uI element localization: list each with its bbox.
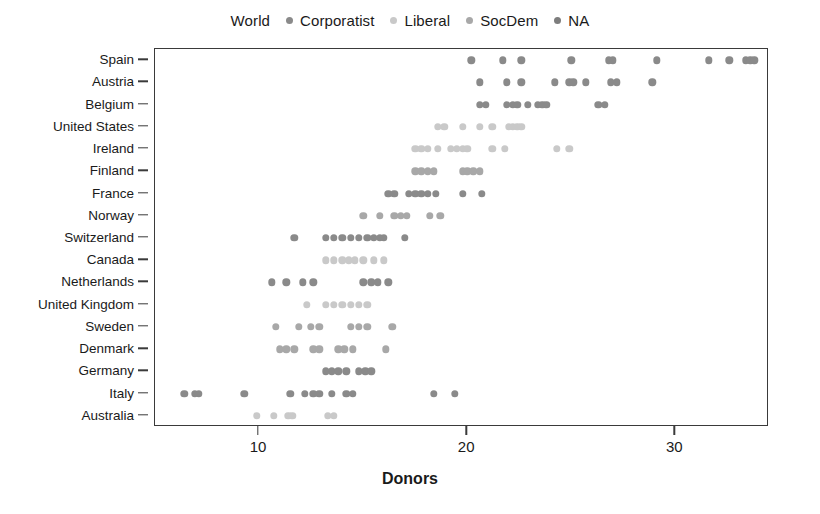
data-point — [343, 368, 350, 375]
y-axis-label: Germany — [78, 363, 134, 378]
y-axis-tick — [138, 370, 148, 371]
x-axis-tick — [257, 426, 258, 435]
data-point — [570, 79, 577, 86]
data-point — [613, 79, 620, 86]
data-point — [751, 56, 758, 63]
data-point — [330, 257, 337, 264]
data-point — [195, 390, 202, 397]
data-point — [309, 279, 316, 286]
data-point — [272, 323, 279, 330]
legend-title: World — [231, 12, 270, 29]
x-axis-title: Donors — [0, 470, 820, 488]
y-axis-tick — [138, 170, 148, 171]
data-point — [568, 56, 575, 63]
data-point — [349, 345, 356, 352]
y-axis-tick — [138, 259, 148, 260]
data-point — [347, 301, 354, 308]
y-axis-label: Austria — [92, 74, 134, 89]
legend-entry-na: NA — [538, 12, 589, 29]
y-axis-tick — [138, 192, 148, 193]
data-point — [299, 279, 306, 286]
data-point — [543, 101, 550, 108]
y-axis-label: Finland — [90, 163, 134, 178]
plot-area — [154, 48, 768, 426]
data-point — [551, 79, 558, 86]
y-axis-tick — [138, 81, 148, 82]
data-point — [316, 345, 323, 352]
y-axis-label: Spain — [99, 52, 134, 67]
data-point — [301, 390, 308, 397]
x-axis: 102030 — [154, 426, 768, 466]
y-axis-tick — [138, 58, 148, 59]
data-point — [328, 390, 335, 397]
legend-dot-liberal — [390, 17, 397, 24]
data-point — [518, 79, 525, 86]
x-axis-tick — [674, 426, 675, 435]
y-axis-tick — [138, 347, 148, 348]
y-axis-tick — [138, 281, 148, 282]
data-point — [374, 279, 381, 286]
data-point — [553, 145, 560, 152]
data-point — [705, 56, 712, 63]
data-point — [291, 234, 298, 241]
data-point — [268, 279, 275, 286]
legend-label-corporatist: Corporatist — [300, 12, 374, 29]
data-point — [726, 56, 733, 63]
y-axis-label: Belgium — [85, 96, 134, 111]
data-point — [499, 56, 506, 63]
legend-label-liberal: Liberal — [404, 12, 450, 29]
legend-entry-socdem: SocDem — [450, 12, 538, 29]
data-point — [347, 323, 354, 330]
data-point — [330, 234, 337, 241]
data-point — [441, 123, 448, 130]
data-point — [582, 79, 589, 86]
data-point — [482, 101, 489, 108]
data-point — [364, 323, 371, 330]
data-point — [380, 257, 387, 264]
data-point — [295, 323, 302, 330]
x-axis-label: 10 — [250, 438, 267, 455]
data-point — [347, 234, 354, 241]
y-axis-label: Netherlands — [61, 274, 134, 289]
legend-entry-corporatist: Corporatist — [270, 12, 374, 29]
data-point — [289, 412, 296, 419]
y-axis: SpainAustriaBelgiumUnited StatesIrelandF… — [0, 48, 148, 426]
data-point — [601, 101, 608, 108]
data-point — [391, 190, 398, 197]
data-point — [518, 123, 525, 130]
data-point — [653, 56, 660, 63]
data-point — [382, 345, 389, 352]
data-point — [464, 145, 471, 152]
data-point — [430, 390, 437, 397]
data-point — [488, 145, 495, 152]
y-axis-label: Sweden — [85, 318, 134, 333]
y-axis-label: Denmark — [79, 341, 134, 356]
data-point — [380, 234, 387, 241]
y-axis-tick — [138, 147, 148, 148]
data-point — [565, 145, 572, 152]
data-points-layer — [155, 49, 767, 425]
data-point — [303, 301, 310, 308]
data-point — [364, 301, 371, 308]
data-point — [241, 390, 248, 397]
data-point — [459, 123, 466, 130]
chart-root: World Corporatist Liberal SocDem NA Spai… — [0, 0, 820, 514]
y-axis-tick — [138, 236, 148, 237]
x-axis-tick — [466, 426, 467, 435]
data-point — [451, 390, 458, 397]
legend-dot-corporatist — [286, 17, 293, 24]
legend-label-na: NA — [568, 12, 589, 29]
data-point — [609, 56, 616, 63]
data-point — [287, 390, 294, 397]
y-axis-label: Switzerland — [64, 230, 134, 245]
x-axis-label: 20 — [458, 438, 475, 455]
data-point — [316, 323, 323, 330]
y-axis-tick — [138, 214, 148, 215]
y-axis-label: United Kingdom — [38, 296, 134, 311]
data-point — [518, 56, 525, 63]
data-point — [370, 257, 377, 264]
data-point — [270, 412, 277, 419]
data-point — [341, 345, 348, 352]
data-point — [330, 301, 337, 308]
data-point — [476, 168, 483, 175]
